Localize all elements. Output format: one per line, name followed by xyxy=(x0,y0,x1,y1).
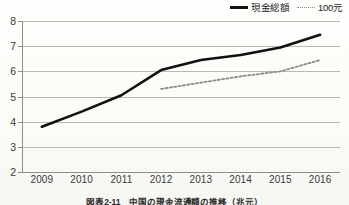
legend-label-cash-total: 現金総額 xyxy=(251,3,290,13)
chart-legend: 現金総額 100元 xyxy=(230,3,343,13)
y-axis-label-7: 7 xyxy=(10,40,16,52)
x-axis-label-2013: 2013 xyxy=(190,174,213,185)
x-axis-label-2014: 2014 xyxy=(229,174,252,185)
x-axis-labels: 20092010201120122013201420152016 xyxy=(22,174,340,192)
legend-item-cash-total: 現金総額 xyxy=(230,3,290,13)
x-axis-label-2015: 2015 xyxy=(269,174,292,185)
legend-label-100-yuan: 100元 xyxy=(318,3,343,13)
legend-item-100-yuan: 100元 xyxy=(297,3,343,13)
legend-swatch-dotted-line-icon xyxy=(297,7,315,8)
x-axis-label-2010: 2010 xyxy=(70,174,93,185)
y-axis-label-6: 6 xyxy=(10,65,16,77)
legend-swatch-solid-line-icon xyxy=(230,6,248,9)
figure-container: 現金総額 100元 2345678 2009201020112012201320… xyxy=(0,0,349,205)
y-axis-label-8: 8 xyxy=(10,15,16,27)
y-axis-label-2: 2 xyxy=(10,166,16,178)
x-axis-label-2011: 2011 xyxy=(110,174,132,185)
x-axis-label-2016: 2016 xyxy=(309,174,332,185)
y-axis-label-5: 5 xyxy=(10,91,16,103)
y-axis-tick-2 xyxy=(18,172,22,173)
gridline-2 xyxy=(22,172,340,173)
x-axis-label-2009: 2009 xyxy=(31,174,54,185)
series-lines xyxy=(22,21,340,172)
series-line-cash-total xyxy=(42,35,320,127)
y-axis-label-3: 3 xyxy=(10,141,16,153)
plot-area: 2345678 xyxy=(22,21,340,172)
figure-caption: 図表2-11 中国の現金流通額の推移（兆元） xyxy=(0,197,349,205)
x-axis-label-2012: 2012 xyxy=(150,174,173,185)
y-axis-label-4: 4 xyxy=(10,116,16,128)
